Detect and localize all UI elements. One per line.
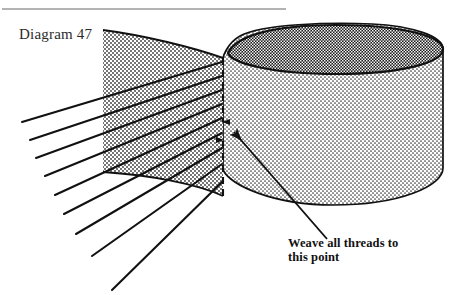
fabric-fill bbox=[103, 30, 223, 196]
callout-caption-line-1: Weave all threads to bbox=[288, 237, 398, 251]
callout-caption-line-2: this point bbox=[288, 251, 398, 265]
callout-caption: Weave all threads to this point bbox=[288, 237, 398, 264]
cylinder-drum bbox=[223, 23, 443, 205]
cylinder-top-ellipse bbox=[228, 25, 443, 74]
fabric-panel bbox=[103, 30, 223, 196]
diagram-number-label: Diagram 47 bbox=[19, 26, 92, 43]
